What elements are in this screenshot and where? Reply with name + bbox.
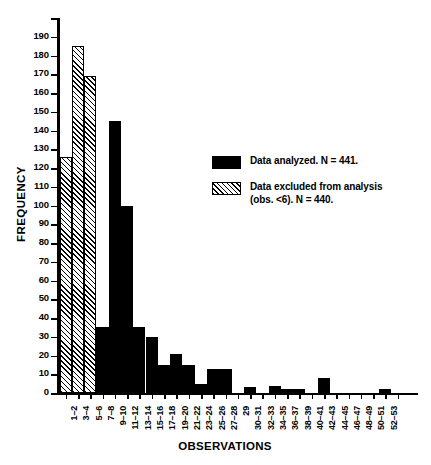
x-tick-label: 19–20	[180, 406, 190, 430]
histogram-bar	[182, 365, 194, 393]
x-tick-label: 25–26	[217, 406, 227, 430]
x-tick	[299, 393, 301, 399]
x-tick-label: 23–24	[204, 406, 214, 430]
x-tick-label: 52–53	[389, 406, 399, 430]
x-tick-label: 15–16	[155, 406, 165, 430]
x-tick	[336, 393, 338, 399]
x-tick-label: 3–4	[81, 406, 91, 420]
histogram-bar	[219, 369, 231, 393]
x-tick	[115, 393, 117, 399]
x-tick-label: 30–31	[253, 406, 263, 430]
histogram-bar	[60, 157, 72, 393]
x-tick	[213, 393, 215, 399]
histogram-bar	[318, 378, 330, 393]
x-tick	[324, 393, 326, 399]
x-tick	[238, 393, 240, 399]
y-tick-label: 110	[34, 180, 49, 191]
x-tick-label: 44–45	[340, 406, 350, 430]
histogram-bar	[72, 46, 84, 393]
histogram-bar	[281, 389, 293, 393]
histogram-bar	[84, 76, 96, 393]
y-tick-label: 130	[33, 142, 49, 153]
x-tick	[361, 393, 363, 399]
histogram-bar	[96, 327, 108, 393]
histogram-bar	[269, 386, 281, 394]
x-tick	[262, 393, 264, 399]
y-tick-label: 20	[39, 349, 49, 360]
x-tick-label: 40–41	[315, 406, 325, 430]
legend-swatch-solid	[212, 156, 241, 169]
x-tick	[78, 393, 80, 399]
histogram-bar	[207, 369, 219, 393]
y-tick-label: 60	[39, 274, 49, 285]
x-tick	[275, 393, 277, 399]
x-tick	[66, 393, 68, 399]
x-tick	[287, 393, 289, 399]
x-tick-label: 21–22	[192, 406, 202, 430]
histogram-bar	[158, 365, 170, 393]
histogram-bar	[170, 354, 182, 393]
x-tick	[189, 393, 191, 399]
chart-legend: Data analyzed. N = 441.Data excluded fro…	[212, 155, 427, 218]
x-tick-label: 17–18	[167, 406, 177, 430]
legend-label: Data analyzed. N = 441.	[250, 155, 358, 168]
y-tick-label: 170	[33, 67, 49, 78]
x-tick	[139, 393, 141, 399]
x-tick	[312, 393, 314, 399]
x-tick-label: 50–51	[376, 406, 386, 430]
x-tick-label: 38–39	[303, 406, 313, 430]
x-tick	[385, 393, 387, 399]
y-tick-label: 140	[33, 124, 49, 135]
x-tick	[373, 393, 375, 399]
y-tick-label: 40	[39, 311, 49, 322]
y-tick-label: 90	[39, 217, 49, 228]
x-tick	[164, 393, 166, 399]
histogram-bar	[379, 389, 391, 393]
x-tick	[250, 393, 252, 399]
x-tick-label: 5–6	[94, 406, 104, 420]
x-tick-label: 29	[241, 406, 251, 416]
histogram-figure: FREQUENCY OBSERVATIONS 01020304050607080…	[0, 0, 431, 465]
x-tick	[103, 393, 105, 399]
legend-label: Data excluded from analysis(obs. <6). N …	[250, 181, 382, 206]
x-tick-label: 32–33	[266, 406, 276, 430]
x-tick-label: 13–14	[143, 406, 153, 430]
histogram-bar	[195, 384, 207, 393]
y-tick-label: 30	[39, 330, 49, 341]
y-tick-label: 180	[33, 49, 49, 60]
histogram-bar	[293, 389, 305, 393]
x-tick-label: 9–10	[118, 406, 128, 425]
x-tick-label: 42–43	[327, 406, 337, 430]
histogram-bar	[244, 387, 256, 393]
y-tick-label: 160	[33, 86, 49, 97]
histogram-bar	[146, 337, 158, 393]
legend-swatch-hatch	[212, 182, 241, 195]
y-tick-label: 10	[39, 367, 49, 378]
y-tick-label: 50	[39, 292, 49, 303]
y-tick-label: 70	[39, 255, 49, 266]
x-tick	[152, 393, 154, 399]
x-tick-label: 36–37	[290, 406, 300, 430]
y-tick-label: 100	[33, 199, 49, 210]
histogram-bar	[121, 206, 133, 394]
x-tick-label: 7–8	[106, 406, 116, 420]
y-tick-label: 150	[33, 105, 49, 116]
x-axis-title: OBSERVATIONS	[150, 440, 300, 452]
y-axis-title: FREQUENCY	[15, 134, 27, 274]
x-tick	[201, 393, 203, 399]
x-tick	[176, 393, 178, 399]
x-tick	[226, 393, 228, 399]
y-tick-label: 0	[44, 386, 49, 397]
x-tick	[127, 393, 129, 399]
histogram-bar	[109, 121, 121, 393]
y-tick-label: 190	[33, 30, 49, 41]
x-tick	[349, 393, 351, 399]
x-tick	[398, 393, 400, 399]
y-tick-label: 80	[39, 236, 49, 247]
y-tick-label: 120	[33, 161, 49, 172]
x-tick-label: 34–35	[278, 406, 288, 430]
x-tick-label: 11–12	[130, 406, 140, 430]
x-tick	[90, 393, 92, 399]
x-tick-label: 48–49	[364, 406, 374, 430]
legend-item: Data excluded from analysis(obs. <6). N …	[212, 181, 427, 206]
